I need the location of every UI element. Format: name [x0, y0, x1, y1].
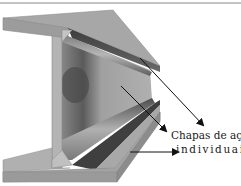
annotation-line-2: individuais [176, 143, 241, 155]
annotation-line-1: Chapas de aço [171, 129, 241, 141]
i-beam-illustration [0, 0, 241, 186]
i-beam-diagram: Chapas de aço individuais [0, 0, 241, 186]
